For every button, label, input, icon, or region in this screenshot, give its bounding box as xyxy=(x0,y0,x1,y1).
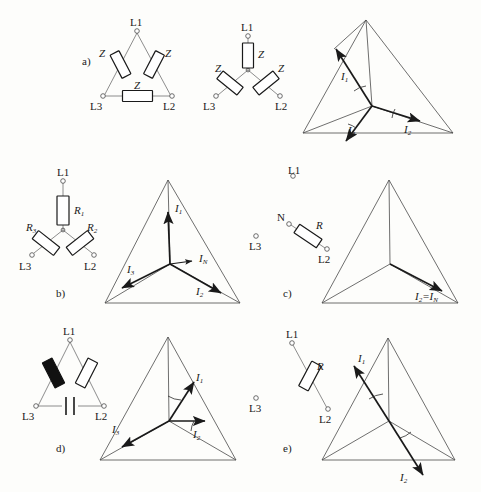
label-l1-e: L1 xyxy=(286,328,298,340)
phasor-i2-a xyxy=(372,106,420,121)
circuit-a-star: Z Z Z L1 L3 L2 xyxy=(203,21,287,112)
label-l1-c: L1 xyxy=(288,164,300,176)
circuit-b-star: R1 R3 R2 L1 L3 L2 xyxy=(19,166,98,272)
terminal-group-l3-e: L3 xyxy=(249,396,262,414)
terminal-l2-c xyxy=(325,247,330,252)
phasor-i1-d xyxy=(169,382,194,421)
label-r-c: R xyxy=(315,219,323,231)
phasor-label-in-b: IN xyxy=(198,252,208,266)
impedance-z-star-l3 xyxy=(217,71,243,95)
label-l2-c: L2 xyxy=(318,253,330,265)
phasor-in-b xyxy=(170,261,192,264)
impedance-z-l1l2 xyxy=(144,51,165,79)
phasor-i2-e xyxy=(389,421,423,475)
terminal-l1 xyxy=(135,29,140,34)
label-l2-e: L2 xyxy=(319,413,331,425)
circuit-a-delta: Z Z Z L1 L3 L2 xyxy=(90,16,175,112)
terminal-l3-e xyxy=(254,396,259,401)
terminal-l2 xyxy=(170,94,175,99)
label-n-c: N xyxy=(277,211,285,223)
label-r3: R3 xyxy=(25,221,37,235)
svg-text:I3: I3 xyxy=(347,124,356,138)
phasor-label-i1-d: I1 xyxy=(195,371,203,385)
phasor-label-i2-b: I2 xyxy=(195,285,204,299)
terminal-l3-c xyxy=(254,234,259,239)
inductor-element-d xyxy=(42,358,64,388)
label-l3-d: L3 xyxy=(22,410,35,422)
terminal-l3-d xyxy=(34,404,39,409)
capacitor-element-d xyxy=(66,397,74,415)
phasor-diagram-e: I1 I2 xyxy=(322,338,455,485)
phasor-i1-b xyxy=(168,212,170,264)
circuit-d-delta: L1 L3 L2 xyxy=(22,325,107,422)
terminal-l2-b xyxy=(92,253,97,258)
label-r1: R1 xyxy=(73,204,84,218)
phasor-i3-d xyxy=(122,421,169,447)
label-l3-star: L3 xyxy=(203,100,216,112)
terminal-l1-b xyxy=(61,179,66,184)
terminal-n-c xyxy=(287,222,292,227)
phasor-label-i2-in-c: I2=IN xyxy=(414,290,438,304)
impedance-z-star-l2 xyxy=(253,71,279,95)
phasor-i2-in-c xyxy=(390,264,442,291)
label-z-star-top: Z xyxy=(258,48,265,60)
label-l3-delta: L3 xyxy=(90,100,103,112)
terminal-l1-star xyxy=(246,34,251,39)
label-z-star-right: Z xyxy=(278,62,285,74)
phasor-label-i3-b: I3 xyxy=(126,263,135,277)
label-l2-delta: L2 xyxy=(163,100,175,112)
label-l3-b: L3 xyxy=(19,260,32,272)
svg-text:I1: I1 xyxy=(340,70,348,84)
phasor-diagram-a: I1 I2 I3 xyxy=(303,20,453,141)
figure-svg: a) Z Z Z L1 L3 L2 xyxy=(0,0,481,492)
circuit-c-single-r: N R L2 xyxy=(277,211,330,265)
circuit-e-single-r: L1 R L2 xyxy=(286,328,331,425)
resistor-r1 xyxy=(57,196,69,225)
section-label-d: d) xyxy=(56,442,66,455)
label-l1-b: L1 xyxy=(57,166,69,178)
label-z-left: Z xyxy=(99,47,106,59)
label-l1-d: L1 xyxy=(63,325,75,337)
impedance-z-l3l2 xyxy=(123,91,153,102)
section-label-b: b) xyxy=(56,287,66,300)
terminal-l3-b xyxy=(30,253,35,258)
phasor-label-i2-e: I2 xyxy=(399,471,408,485)
terminal-l2-d xyxy=(102,404,107,409)
svg-text:I2: I2 xyxy=(403,123,412,137)
phasor-label-i1-a: I1 xyxy=(340,70,348,84)
section-label-a: a) xyxy=(82,55,91,68)
phasor-label-i3-d: I3 xyxy=(111,423,120,437)
label-l3-e: L3 xyxy=(249,402,262,414)
phasor-label-i1-e: I1 xyxy=(357,352,365,366)
phasor-i1-e xyxy=(354,366,389,421)
label-l2-b: L2 xyxy=(84,260,96,272)
label-l1-delta: L1 xyxy=(130,16,142,28)
figure-canvas: a) Z Z Z L1 L3 L2 xyxy=(0,0,481,492)
label-z-bottom: Z xyxy=(134,79,141,91)
label-l2-d: L2 xyxy=(95,410,107,422)
impedance-z-l1l3 xyxy=(110,51,131,79)
terminal-l3-star xyxy=(214,94,219,99)
resistor-element-d xyxy=(75,358,97,388)
terminal-group-l3-c: L3 xyxy=(249,234,262,252)
terminal-l2-star xyxy=(278,94,283,99)
phasor-label-i3-a: I3 xyxy=(347,124,356,138)
terminal-group-l1-c: L1 xyxy=(288,164,300,178)
terminal-l1-d xyxy=(68,338,73,343)
label-z-star-left: Z xyxy=(215,62,222,74)
label-r-e: R xyxy=(316,360,324,372)
terminal-l2-e xyxy=(326,407,331,412)
label-l1-star: L1 xyxy=(241,21,253,33)
phasor-diagram-b: I1 IN I2 I3 xyxy=(105,180,240,303)
label-l3-c: L3 xyxy=(249,240,262,252)
phasor-label-i2-d: I2 xyxy=(192,428,201,442)
label-z-right: Z xyxy=(165,47,172,59)
phasor-diagram-d: I1 I2 I3 xyxy=(100,337,236,460)
phasor-diagram-c: I2=IN xyxy=(322,180,458,304)
impedance-z-star-l1 xyxy=(243,43,254,68)
terminal-l1-e xyxy=(290,341,295,346)
phasor-label-i2-a: I2 xyxy=(403,123,412,137)
section-label-e: e) xyxy=(283,442,292,455)
label-l2-star: L2 xyxy=(275,100,287,112)
phasor-label-i1-b: I1 xyxy=(174,202,182,216)
